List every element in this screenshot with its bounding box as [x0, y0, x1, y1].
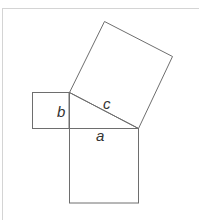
- square-c: [70, 22, 173, 129]
- label-c: c: [103, 95, 111, 112]
- label-a: a: [96, 127, 104, 144]
- label-b: b: [57, 103, 65, 120]
- pythagoras-diagram: b c a: [0, 0, 199, 220]
